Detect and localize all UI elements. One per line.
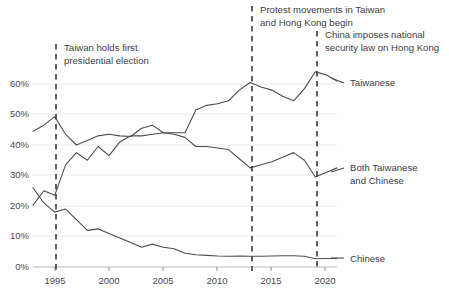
legend-label-taiwanese: Taiwanese bbox=[350, 77, 395, 88]
series-group bbox=[33, 72, 337, 259]
y-tick-0: 0% bbox=[15, 261, 29, 272]
annotation-2020-security-law: China imposes national security law on H… bbox=[325, 29, 439, 53]
gridlines bbox=[33, 84, 337, 236]
legend-label-chinese: Chinese bbox=[350, 253, 385, 264]
y-tick-20: 20% bbox=[10, 200, 30, 211]
annotation-2014-protests: Protest movements in Taiwan and Hong Kon… bbox=[260, 4, 385, 28]
chart-container: 60% 50% 40% 30% 20% 10% 0% 1995 2000 200… bbox=[0, 0, 449, 300]
x-tick-2015: 2015 bbox=[260, 275, 281, 286]
y-tick-60: 60% bbox=[10, 78, 30, 89]
series-line-chinese bbox=[33, 188, 337, 259]
legend-leader-taiwanese bbox=[331, 78, 344, 83]
x-tick-2000: 2000 bbox=[98, 275, 119, 286]
annotation-2014-line1: Protest movements in Taiwan bbox=[260, 4, 385, 15]
series-line-taiwanese bbox=[33, 72, 337, 145]
annotation-1996-election: Taiwan holds first presidential election bbox=[64, 42, 149, 66]
annotation-1996-line1: Taiwan holds first bbox=[64, 42, 138, 53]
legend-label-both-line2: and Chinese bbox=[350, 175, 404, 186]
x-axis-ticks bbox=[55, 267, 325, 271]
y-axis-labels: 60% 50% 40% 30% 20% 10% 0% bbox=[10, 78, 30, 272]
y-tick-40: 40% bbox=[10, 139, 30, 150]
x-axis-labels: 1995 2000 2005 2010 2015 2020 bbox=[44, 275, 335, 286]
annotation-2014-line2: and Hong Kong begin bbox=[260, 17, 353, 28]
legend-label-both-line1: Both Taiwanese bbox=[350, 162, 418, 173]
annotation-2020-line1: China imposes national bbox=[325, 29, 425, 40]
x-tick-2010: 2010 bbox=[206, 275, 227, 286]
annotation-1996-line2: presidential election bbox=[64, 55, 149, 66]
y-tick-10: 10% bbox=[10, 230, 30, 241]
y-tick-50: 50% bbox=[10, 108, 30, 119]
legend: Taiwanese Both Taiwanese and Chinese Chi… bbox=[331, 77, 418, 264]
annotation-2020-line2: security law on Hong Kong bbox=[325, 42, 439, 53]
y-tick-30: 30% bbox=[10, 169, 30, 180]
x-tick-2020: 2020 bbox=[314, 275, 335, 286]
line-chart: 60% 50% 40% 30% 20% 10% 0% 1995 2000 200… bbox=[0, 0, 449, 300]
x-tick-2005: 2005 bbox=[152, 275, 173, 286]
x-tick-1995: 1995 bbox=[44, 275, 65, 286]
